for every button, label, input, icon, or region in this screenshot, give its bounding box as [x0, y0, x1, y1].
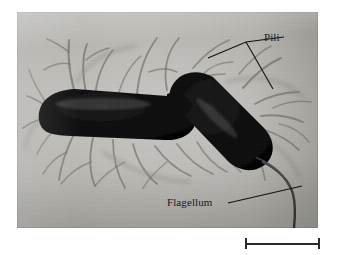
scale-bar-line — [245, 243, 320, 245]
scale-bar-cap-right — [318, 238, 320, 249]
scale-bar — [245, 238, 320, 249]
label-pili: Pili — [264, 31, 280, 43]
micrograph-figure: Pili Flagellum — [0, 0, 341, 255]
label-flagellum: Flagellum — [167, 196, 213, 208]
